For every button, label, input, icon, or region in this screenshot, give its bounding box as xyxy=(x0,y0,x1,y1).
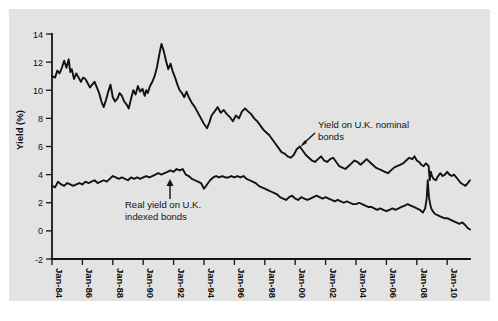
y-tick-label: 8 xyxy=(38,114,43,124)
annotation-nominal-line1: Yield on U.K. nominal xyxy=(318,119,409,130)
x-tick-label: Jan-92 xyxy=(176,268,187,298)
annotation-indexed-arrowhead xyxy=(167,179,174,186)
x-tick-label: Jan-00 xyxy=(297,268,308,298)
annotation-nominal-line2: bonds xyxy=(318,131,344,142)
x-tick-label: Jan-90 xyxy=(145,268,156,298)
y-tick-label: 0 xyxy=(38,226,43,236)
x-tick-label: Jan-94 xyxy=(206,268,217,299)
y-tick-label: 12 xyxy=(33,58,43,68)
data-series-group xyxy=(52,44,470,230)
y-tick-label: 4 xyxy=(38,170,43,180)
x-tick-label: Jan-06 xyxy=(388,268,399,298)
series-line-indexed xyxy=(52,169,470,229)
y-tick-label: 2 xyxy=(38,198,43,208)
x-tick-label: Jan-88 xyxy=(115,268,126,298)
axis-lines xyxy=(52,34,470,259)
y-tick-label: 10 xyxy=(33,86,43,96)
x-tick-label: Jan-98 xyxy=(267,268,278,298)
x-tick-label: Jan-08 xyxy=(419,268,430,298)
figure-root: 14121086420-2 Jan-84Jan-86Jan-88Jan-90Ja… xyxy=(0,0,498,321)
x-axis-ticks: Jan-84Jan-86Jan-88Jan-90Jan-92Jan-94Jan-… xyxy=(52,259,460,299)
annotation-indexed-line2: indexed bonds xyxy=(125,211,187,222)
series-line-nominal xyxy=(52,44,470,186)
x-tick-label: Jan-84 xyxy=(54,268,65,299)
y-axis-ticks: 14121086420-2 xyxy=(33,30,52,265)
x-tick-label: Jan-96 xyxy=(236,268,247,298)
y-tick-label: -2 xyxy=(35,255,43,265)
y-tick-label: 6 xyxy=(38,142,43,152)
y-axis-title: Yield (%) xyxy=(14,110,25,150)
annotation-indexed: Real yield on U.K. indexed bonds xyxy=(125,179,201,222)
x-tick-label: Jan-86 xyxy=(84,268,95,298)
annotation-indexed-line1: Real yield on U.K. xyxy=(125,199,201,210)
x-tick-label: Jan-10 xyxy=(449,268,460,298)
chart-plot: 14121086420-2 Jan-84Jan-86Jan-88Jan-90Ja… xyxy=(0,0,498,321)
x-tick-label: Jan-04 xyxy=(358,268,369,299)
y-tick-label: 14 xyxy=(33,30,43,40)
annotation-nominal: Yield on U.K. nominal bonds xyxy=(300,119,409,147)
x-tick-label: Jan-02 xyxy=(328,268,339,298)
